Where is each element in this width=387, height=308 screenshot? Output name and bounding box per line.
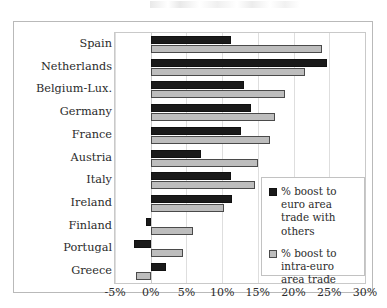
bar-row xyxy=(115,34,365,55)
legend-entry-label: % boost to euro area trade with others xyxy=(281,185,358,238)
chart-figure-frame: SpainNetherlandsBelgium-Lux.GermanyFranc… xyxy=(13,21,373,293)
value-axis: -5%0%5%10%15%20%25%30% xyxy=(114,284,366,304)
bar-row xyxy=(115,79,365,100)
bar-row xyxy=(115,102,365,123)
x-tick-label: 15% xyxy=(246,286,270,299)
bar-light xyxy=(151,204,224,212)
bar-light xyxy=(151,113,275,121)
light-square-icon xyxy=(269,250,277,258)
category-label: Greece xyxy=(71,260,112,281)
bar-light xyxy=(151,136,270,144)
bar-dark xyxy=(151,81,245,89)
bar-dark xyxy=(151,59,327,67)
bar-light xyxy=(151,227,193,235)
bar-light xyxy=(136,272,150,280)
bar-row xyxy=(115,148,365,169)
bar-dark xyxy=(146,218,150,226)
category-label: Austria xyxy=(70,147,112,168)
x-tick-label: 0% xyxy=(142,286,159,299)
category-label: Ireland xyxy=(71,192,112,213)
category-label: Finland xyxy=(68,215,112,236)
dark-square-icon xyxy=(269,188,277,196)
bar-light xyxy=(151,249,183,257)
legend-entry: % boost to euro area trade with others xyxy=(269,185,358,238)
bar-light xyxy=(151,181,255,189)
bar-dark xyxy=(151,150,201,158)
bar-dark xyxy=(151,36,232,44)
category-label: Spain xyxy=(79,33,112,54)
category-label: Portugal xyxy=(63,237,112,258)
category-label: Netherlands xyxy=(41,56,112,77)
bar-light xyxy=(151,90,285,98)
scan-artifact-strip xyxy=(150,1,300,8)
bar-light xyxy=(151,68,305,76)
x-tick-label: 20% xyxy=(281,286,305,299)
bar-dark xyxy=(151,195,232,203)
category-label: Germany xyxy=(60,101,112,122)
legend-entry-label: % boost to intra-euro area trade xyxy=(281,247,358,287)
chart-legend: % boost to euro area trade with others %… xyxy=(261,177,365,276)
x-tick-label: -5% xyxy=(104,286,125,299)
x-tick-label: 5% xyxy=(178,286,195,299)
bar-light xyxy=(151,159,258,167)
bar-dark xyxy=(151,263,166,271)
category-label: Italy xyxy=(86,169,112,190)
gridline-30 xyxy=(365,33,366,283)
category-label: Belgium-Lux. xyxy=(36,78,112,99)
bar-light xyxy=(151,45,322,53)
x-tick-label: 10% xyxy=(210,286,234,299)
bar-dark xyxy=(151,172,231,180)
category-axis: SpainNetherlandsBelgium-Lux.GermanyFranc… xyxy=(14,32,118,264)
category-label: France xyxy=(72,124,112,145)
bar-dark xyxy=(134,240,151,248)
legend-entry: % boost to intra-euro area trade xyxy=(269,247,358,287)
bar-row xyxy=(115,57,365,78)
bar-dark xyxy=(151,127,241,135)
x-tick-label: 30% xyxy=(353,286,377,299)
bar-row xyxy=(115,125,365,146)
bar-dark xyxy=(151,104,251,112)
x-tick-label: 25% xyxy=(317,286,341,299)
